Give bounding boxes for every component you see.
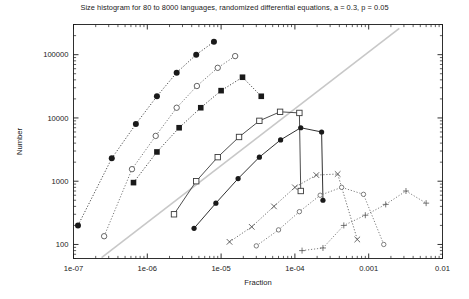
marker-filled-square xyxy=(258,93,264,99)
marker-open-circle xyxy=(297,209,301,213)
series-3 xyxy=(171,109,303,217)
x-tick-label: 1e-04 xyxy=(285,264,304,273)
y-tick-label: 100000 xyxy=(43,50,68,59)
marker-cross-x xyxy=(292,185,298,191)
marker-open-circle xyxy=(382,242,386,246)
x-tick-label: 1e-05 xyxy=(211,264,230,273)
marker-filled-square xyxy=(218,88,224,94)
marker-filled-square xyxy=(176,125,182,131)
series-4 xyxy=(191,125,325,231)
marker-cross-x xyxy=(249,224,255,230)
marker-open-circle xyxy=(101,234,106,239)
marker-filled-circle xyxy=(320,198,325,203)
series-line xyxy=(78,42,214,226)
marker-filled-square xyxy=(240,74,246,80)
reference-diagonal-line xyxy=(102,28,400,257)
marker-plus xyxy=(383,201,389,207)
marker-plus xyxy=(362,212,368,218)
marker-open-square xyxy=(236,134,241,139)
marker-filled-circle xyxy=(174,70,180,76)
chart-canvas: 1e-071e-061e-051e-040.0010.0110010001000… xyxy=(0,0,469,299)
chart-root: Size histogram for 80 to 8000 languages,… xyxy=(0,0,469,299)
marker-open-circle xyxy=(339,185,343,189)
marker-filled-circle xyxy=(109,155,115,161)
marker-filled-circle xyxy=(133,121,139,127)
series-5 xyxy=(227,171,360,244)
marker-filled-square xyxy=(131,180,137,186)
axes-group xyxy=(74,25,443,259)
x-tick-label: 1e-07 xyxy=(64,264,83,273)
marker-plus xyxy=(423,200,429,206)
series-line xyxy=(194,128,323,229)
series-7 xyxy=(299,188,429,254)
series-line xyxy=(230,174,358,242)
reference-line-group xyxy=(102,28,400,257)
marker-filled-circle xyxy=(213,201,218,206)
marker-filled-circle xyxy=(278,137,283,142)
marker-filled-circle xyxy=(298,125,303,130)
x-tick-label: 0.01 xyxy=(435,264,450,273)
series-line xyxy=(104,56,235,236)
marker-open-circle xyxy=(215,65,220,70)
x-tick-label: 0.001 xyxy=(359,264,378,273)
marker-filled-square xyxy=(154,149,160,155)
marker-open-square xyxy=(277,109,282,114)
marker-open-circle xyxy=(361,192,365,196)
marker-open-square xyxy=(298,188,303,193)
marker-open-circle xyxy=(276,228,280,232)
marker-open-circle xyxy=(174,105,179,110)
series-6 xyxy=(254,185,386,248)
marker-cross-x xyxy=(227,239,233,245)
y-tick-label: 1000 xyxy=(52,177,69,186)
marker-open-circle xyxy=(194,83,199,88)
marker-filled-circle xyxy=(191,226,196,231)
marker-filled-circle xyxy=(193,52,199,58)
x-tick-label: 1e-06 xyxy=(138,264,157,273)
marker-filled-square xyxy=(198,105,204,111)
marker-plus xyxy=(403,188,409,194)
marker-cross-x xyxy=(271,204,277,210)
marker-open-square xyxy=(171,212,176,217)
marker-open-square xyxy=(257,118,262,123)
series-2 xyxy=(131,74,264,185)
marker-plus xyxy=(299,248,305,254)
marker-filled-circle xyxy=(211,39,217,45)
series-group xyxy=(75,39,429,254)
y-axis-title: Number xyxy=(15,128,24,155)
marker-open-square xyxy=(297,110,302,115)
x-axis-title: Fraction xyxy=(244,278,271,287)
series-0 xyxy=(75,39,217,229)
series-line xyxy=(174,112,301,214)
marker-filled-circle xyxy=(236,176,241,181)
marker-filled-circle xyxy=(154,93,160,99)
marker-filled-circle xyxy=(319,129,324,134)
y-tick-label: 10000 xyxy=(47,114,68,123)
marker-filled-circle xyxy=(257,155,262,160)
marker-open-circle xyxy=(153,133,158,138)
marker-open-square xyxy=(194,179,199,184)
marker-cross-x xyxy=(354,237,360,243)
marker-open-square xyxy=(215,154,220,159)
marker-open-circle xyxy=(318,193,322,197)
marker-open-circle xyxy=(254,244,258,248)
axis-labels-group: 1e-071e-061e-051e-040.0010.0110010001000… xyxy=(15,50,450,286)
plot-frame xyxy=(74,25,443,259)
marker-open-circle xyxy=(232,53,237,58)
series-line xyxy=(133,77,261,182)
marker-open-circle xyxy=(129,166,134,171)
y-tick-label: 100 xyxy=(56,240,69,249)
